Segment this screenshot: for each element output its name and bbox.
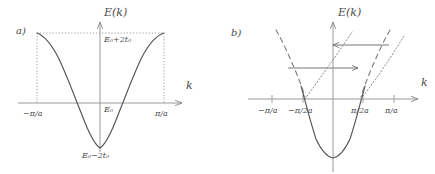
panel-b-dotted-shifted-branch-left (305, 32, 352, 99)
panel-b-tick-label-pi-over-2a: π/2a (351, 107, 369, 115)
panel-a-y-axis-title: E(k) (104, 7, 127, 18)
panel-a-tag: a) (16, 26, 26, 36)
panel-b-tick-label-pi-over-a: π/a (385, 107, 398, 115)
panel-a-graph (18, 22, 182, 152)
panel-a-bottom-value-label: E₀−2t₀ (82, 152, 109, 160)
panel-b-tick-label-minus-pi-over-2a: −π/2a (288, 107, 313, 115)
panel-b-y-axis-title: E(k) (338, 7, 361, 18)
panel-a-top-value-label: E₀+2t₀ (104, 36, 131, 44)
figure-canvas (0, 0, 435, 174)
panel-b-dashed-folded-branch-left (276, 30, 305, 97)
panel-a-x-axis-title: k (186, 80, 193, 91)
panel-b-tag: b) (231, 28, 241, 38)
panel-a-tick-label-right: π/a (155, 110, 168, 118)
band-structure-figure: a) E(k) k E₀+2t₀ E₀ E₀−2t₀ −π/a π/a b) E… (0, 0, 435, 174)
panel-b-graph (248, 22, 418, 172)
panel-a-tick-label-left: −π/a (23, 110, 42, 118)
panel-b-dashed-folded-branch-right (361, 30, 390, 97)
panel-a-origin-value-label: E₀ (104, 106, 113, 114)
panel-b-tick-label-minus-pi-over-a: −π/a (258, 107, 277, 115)
panel-b-x-axis-title: k (421, 77, 428, 88)
